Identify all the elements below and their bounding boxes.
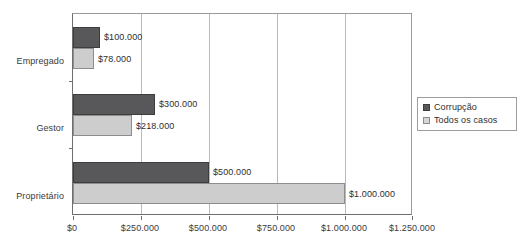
bar-value-empregado-todos-os-casos: $78.000 bbox=[98, 54, 131, 64]
plot-area: $100.000 $78.000 $300.000 $218.000 $500.… bbox=[72, 13, 412, 215]
chart-legend: Corrupção Todos os casos bbox=[417, 97, 517, 131]
x-axis-label-0: $0 bbox=[67, 223, 77, 233]
x-axis-label-250000: $250.000 bbox=[121, 223, 159, 233]
legend-item-corrupcao[interactable]: Corrupção bbox=[423, 102, 511, 112]
bar-empregado-corrupcao[interactable] bbox=[73, 27, 100, 48]
bar-proprietario-corrupcao[interactable] bbox=[73, 162, 209, 183]
bar-value-empregado-corrupcao: $100.000 bbox=[104, 32, 142, 42]
bar-gestor-todos-os-casos[interactable] bbox=[73, 115, 132, 136]
gridline-1000000 bbox=[345, 14, 346, 214]
bar-value-proprietario-corrupcao: $500.000 bbox=[213, 167, 251, 177]
legend-item-todos-os-casos[interactable]: Todos os casos bbox=[423, 115, 511, 125]
x-axis-label-500000: $500.000 bbox=[189, 223, 227, 233]
legend-label-todos-os-casos: Todos os casos bbox=[434, 115, 497, 125]
bar-value-gestor-corrupcao: $300.000 bbox=[159, 99, 197, 109]
x-axis-label-1250000: $1.250.000 bbox=[389, 223, 435, 233]
x-axis-label-1000000: $1.000.000 bbox=[321, 223, 367, 233]
y-axis-tick-1 bbox=[69, 81, 73, 82]
x-axis-tick-250000 bbox=[141, 216, 142, 220]
x-axis-tick-500000 bbox=[209, 216, 210, 220]
legend-swatch-icon-todos-os-casos bbox=[423, 117, 430, 124]
y-axis-label-gestor: Gestor bbox=[36, 123, 64, 133]
bar-proprietario-todos-os-casos[interactable] bbox=[73, 183, 345, 204]
y-axis-label-proprietario: Proprietário bbox=[16, 191, 64, 201]
y-axis-category-labels: Empregado Gestor Proprietário bbox=[0, 13, 68, 215]
x-axis-tick-labels: $0 $250.000 $500.000 $750.000 $1.000.000… bbox=[0, 223, 523, 239]
x-axis-tick-0 bbox=[73, 216, 74, 220]
bar-value-proprietario-todos-os-casos: $1.000.000 bbox=[349, 189, 395, 199]
x-axis-tick-1250000 bbox=[412, 216, 413, 220]
legend-label-corrupcao: Corrupção bbox=[434, 102, 477, 112]
bar-gestor-corrupcao[interactable] bbox=[73, 94, 155, 115]
legend-swatch-icon-corrupcao bbox=[423, 104, 430, 111]
bar-value-gestor-todos-os-casos: $218.000 bbox=[136, 121, 174, 131]
y-axis-label-empregado: Empregado bbox=[17, 56, 64, 66]
x-axis-tick-750000 bbox=[277, 216, 278, 220]
bar-empregado-todos-os-casos[interactable] bbox=[73, 48, 94, 69]
bar-chart: Empregado Gestor Proprietário $100.000 $… bbox=[0, 0, 523, 249]
x-axis-tick-1000000 bbox=[345, 216, 346, 220]
x-axis-label-750000: $750.000 bbox=[257, 223, 295, 233]
y-axis-tick-2 bbox=[69, 148, 73, 149]
